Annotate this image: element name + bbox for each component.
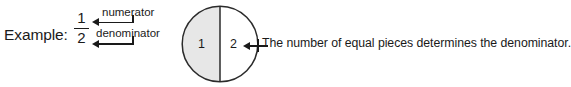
circle-piece-label-1: 1 [198,37,205,51]
denominator-callout-label: denominator [96,27,160,40]
callout-vertical-line [132,36,134,45]
callout-vertical-line [257,39,259,52]
circle-piece-label-2: 2 [230,37,237,51]
fraction-numerator: 1 [73,10,90,26]
numerator-callout-label: numerator [102,6,154,19]
fraction-one-half: 1 2 [73,10,90,46]
callout-vertical-line [132,15,134,24]
fraction-denominator: 2 [73,30,90,46]
circle-right-half-unshaded [220,6,258,82]
callout-horizontal-line [98,22,134,24]
callout-horizontal-line [98,43,134,45]
example-label: Example: [4,26,68,44]
annotation-text: The number of equal pieces determines th… [262,36,571,51]
